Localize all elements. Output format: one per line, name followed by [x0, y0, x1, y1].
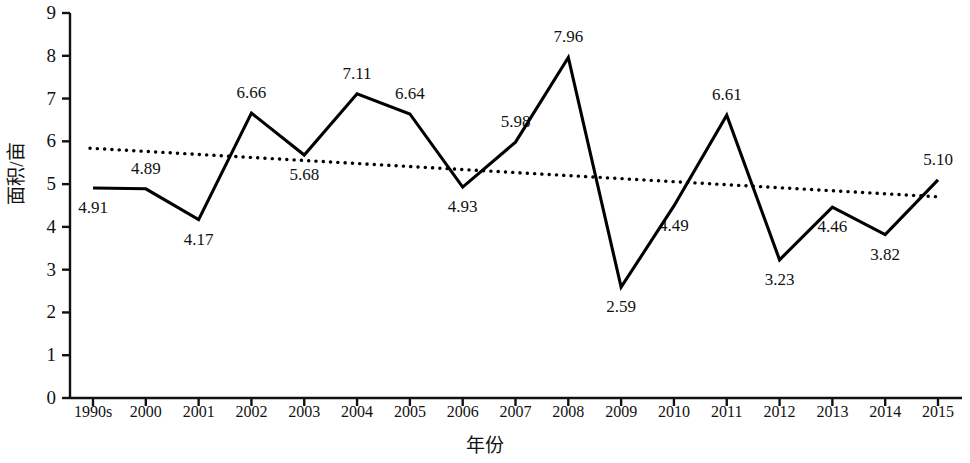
line-chart: 面积/亩 年份 0123456789 1990s2000200120022003…: [0, 0, 970, 463]
trend-line: [90, 148, 941, 197]
plot-area: [0, 0, 970, 463]
x-axis-ticks: [93, 398, 938, 406]
data-series-line: [93, 57, 938, 287]
axes: [70, 13, 962, 398]
